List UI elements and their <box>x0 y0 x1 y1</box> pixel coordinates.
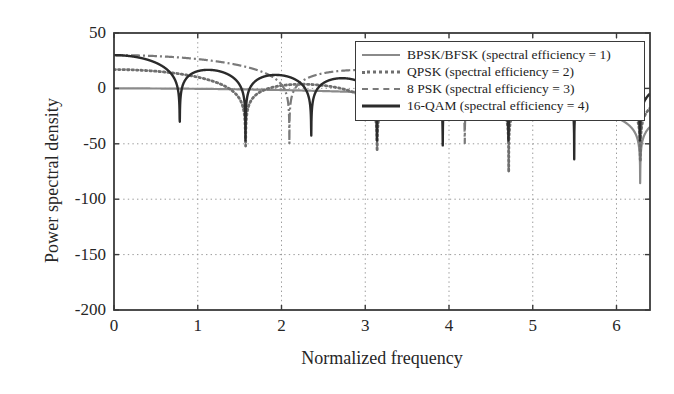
psd-chart-figure: Power spectral density 50 0 -50 -100 -15… <box>0 0 674 394</box>
x-tick-label: 4 <box>429 316 469 336</box>
legend-line-sample-icon <box>362 82 400 96</box>
x-tick-label: 6 <box>597 316 637 336</box>
x-tick-label: 1 <box>178 316 218 336</box>
x-axis-tick-labels: 0 1 2 3 4 5 6 <box>0 316 674 342</box>
x-tick-label: 0 <box>94 316 134 336</box>
legend-label: 8 PSK (spectral efficiency = 3) <box>407 82 574 96</box>
legend-item-bpsk-bfsk: BPSK/BFSK (spectral efficiency = 1) <box>362 47 638 63</box>
x-tick-label: 2 <box>262 316 302 336</box>
legend-label: BPSK/BFSK (spectral efficiency = 1) <box>407 48 611 62</box>
x-tick-label: 5 <box>513 316 553 336</box>
legend-line-sample-icon <box>362 48 400 62</box>
legend-item-16qam: 16-QAM (spectral efficiency = 4) <box>362 98 638 114</box>
legend-label: QPSK (spectral efficiency = 2) <box>407 65 574 79</box>
x-tick-label: 3 <box>345 316 385 336</box>
legend-label: 16-QAM (spectral efficiency = 4) <box>407 99 589 113</box>
legend-item-8psk: 8 PSK (spectral efficiency = 3) <box>362 81 638 97</box>
legend-line-sample-icon <box>362 99 400 113</box>
legend-line-sample-icon <box>362 65 400 79</box>
chart-legend: BPSK/BFSK (spectral efficiency = 1) QPSK… <box>355 41 645 121</box>
legend-item-qpsk: QPSK (spectral efficiency = 2) <box>362 64 638 80</box>
x-axis-title: Normalized frequency <box>114 348 650 369</box>
